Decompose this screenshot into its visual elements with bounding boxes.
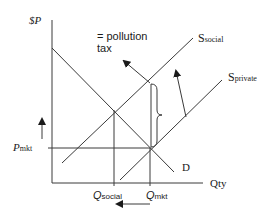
private-supply-label-sub: private <box>235 74 257 83</box>
social-supply-label-sub: social <box>205 35 224 44</box>
demand-label: D <box>182 162 190 173</box>
social-supply-label: Ssocial <box>198 32 223 44</box>
private-supply-label: Sprivate <box>228 71 257 83</box>
pollution-tax-annotation-line2: tax <box>97 43 112 54</box>
private-supply-curve <box>120 80 222 180</box>
q-mkt-label-main: Q <box>146 189 155 201</box>
q-social-label: Qsocial <box>93 190 122 201</box>
market-price-label-main: P <box>13 141 20 153</box>
pollution-tax-arrow <box>124 61 150 83</box>
supply-shift-arrow <box>176 71 186 117</box>
private-supply-label-main: S <box>228 70 235 84</box>
q-social-label-sub: social <box>102 192 122 201</box>
market-price-label: Pmkt <box>13 142 32 153</box>
pollution-tax-annotation-line1: = pollution <box>97 31 147 42</box>
social-supply-label-main: S <box>198 31 205 45</box>
tax-brace <box>151 84 162 147</box>
market-price-label-sub: mkt <box>20 144 32 153</box>
q-social-label-main: Q <box>93 189 102 201</box>
x-axis-label: Qty <box>210 178 227 189</box>
demand-curve <box>52 48 174 172</box>
y-axis-label: $P <box>29 15 41 26</box>
q-mkt-label-sub: mkt <box>155 192 168 201</box>
social-supply-curve <box>62 38 193 163</box>
q-mkt-label: Qmkt <box>146 190 167 201</box>
supply-demand-diagram: $P = pollution tax Ssocial Sprivate D Qt… <box>0 0 272 217</box>
